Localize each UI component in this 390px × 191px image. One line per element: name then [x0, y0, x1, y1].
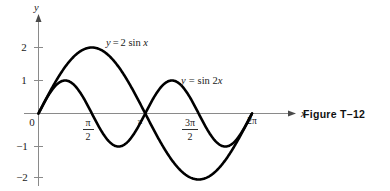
x-tick-label-0: 0: [29, 116, 35, 128]
y-axis-label: y: [33, 2, 39, 13]
curve-label-sin-2x: y=sin 2x: [180, 75, 223, 86]
curve-label-body: 2 sin: [121, 37, 144, 48]
fraction-numerator: π: [85, 117, 90, 128]
curve-label-var-y: y: [105, 37, 111, 48]
y-tick-label-neg2: −2: [16, 171, 28, 183]
y-tick-label-1: 1: [21, 74, 27, 86]
trig-graph-plot: y x 2 1 −1 −2 0 π 2 π 3π 2 2π: [0, 0, 390, 191]
y-tick-label-neg1: −1: [16, 140, 28, 152]
y-tick-label-2: 2: [21, 41, 27, 53]
figure-caption: Figure T–12: [303, 108, 365, 120]
fraction-numerator: 3π: [185, 117, 195, 128]
curve-label-2-sin-x: y=2 sin x: [105, 37, 148, 48]
figure-container: y x 2 1 −1 −2 0 π 2 π 3π 2 2π: [0, 0, 390, 191]
x-axis-arrow-icon: [288, 111, 296, 117]
curve-label-equals: =: [113, 37, 119, 48]
x-tick-label-3pi-over-2: 3π 2: [182, 117, 198, 142]
x-tick-label-pi-over-2: π 2: [83, 117, 94, 142]
curve-label-var-x: x: [217, 75, 223, 86]
fraction-denominator: 2: [188, 131, 193, 142]
curve-label-equals: =: [189, 75, 195, 86]
y-axis-arrow-icon: [36, 14, 42, 22]
curve-label-var-y: y: [180, 75, 186, 86]
curve-label-body: sin 2: [198, 75, 218, 86]
fraction-denominator: 2: [86, 131, 91, 142]
curve-label-var-x: x: [142, 37, 148, 48]
